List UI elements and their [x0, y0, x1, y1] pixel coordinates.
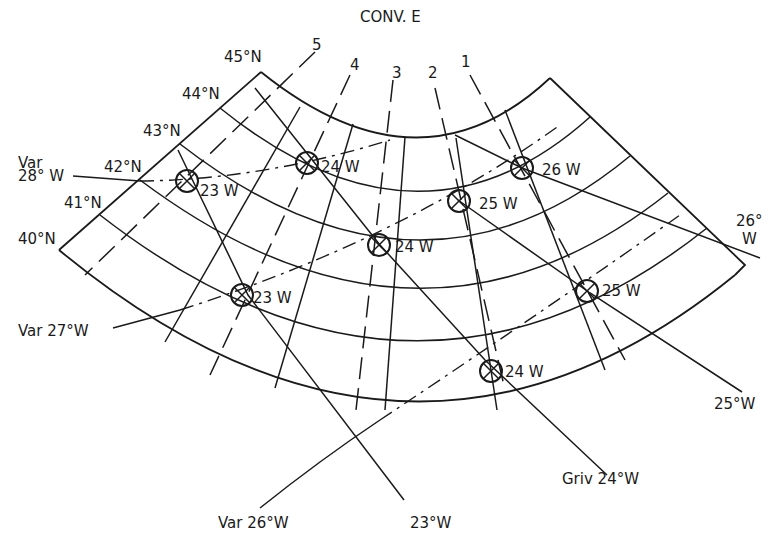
parallel-40n [59, 250, 735, 402]
fix-label: 24 W [321, 158, 360, 176]
fix-label: 23 W [200, 182, 239, 200]
track-label-3: 3 [392, 64, 402, 82]
griv-25w-label: 25°W [714, 395, 756, 413]
fix-label: 26 W [542, 161, 581, 179]
lat-label-43n: 43°N [143, 122, 181, 140]
parallel-41n [100, 215, 707, 341]
griv-26w-label-line2: W [742, 230, 757, 248]
frame-left-edge [59, 72, 261, 250]
track-lines [85, 52, 625, 410]
lat-label-41n: 41°N [64, 194, 102, 212]
track-label-5: 5 [312, 36, 322, 54]
fix-label: 24 W [395, 238, 434, 256]
fix-marker [231, 284, 253, 306]
fix-label: 23 W [253, 289, 292, 307]
parallel-45n [261, 72, 550, 138]
lat-label-45n: 45°N [224, 48, 262, 66]
griv-24w-label: Griv 24°W [562, 470, 639, 488]
var-28w-label-line2: 28° W [18, 167, 64, 185]
isogonic-lines [73, 125, 680, 508]
chart-title: CONV. E [360, 8, 421, 26]
var-28w-outer [73, 176, 140, 181]
var-26w-outer [260, 420, 380, 508]
grivation-chart: CONV. E 5 4 3 2 1 45°N 44°N 43°N 4 [0, 0, 775, 547]
lat-label-44n: 44°N [182, 85, 220, 103]
track-label-4: 4 [350, 56, 360, 74]
fix-label: 25 W [479, 195, 518, 213]
parallel-43n [180, 144, 630, 240]
griv-26w-label-line1: 26° [736, 212, 763, 230]
track-label-1: 1 [461, 53, 471, 71]
griv-23w-label: 23°W [410, 514, 452, 532]
fix-marker [480, 360, 502, 382]
fix-marker [576, 280, 598, 302]
track-1 [470, 75, 625, 360]
lat-label-40n: 40°N [18, 230, 56, 248]
var-26w-label: Var 26°W [218, 514, 289, 532]
var-27w-label: Var 27°W [18, 322, 89, 340]
track-label-2: 2 [428, 64, 438, 82]
lat-label-42n: 42°N [104, 158, 142, 176]
fix-label: 24 W [505, 363, 544, 381]
fix-label: 25 W [602, 282, 641, 300]
meridian-3 [385, 137, 405, 410]
meridian-5 [505, 110, 605, 370]
fix-marker [176, 170, 198, 192]
var-27w-outer [113, 310, 180, 328]
